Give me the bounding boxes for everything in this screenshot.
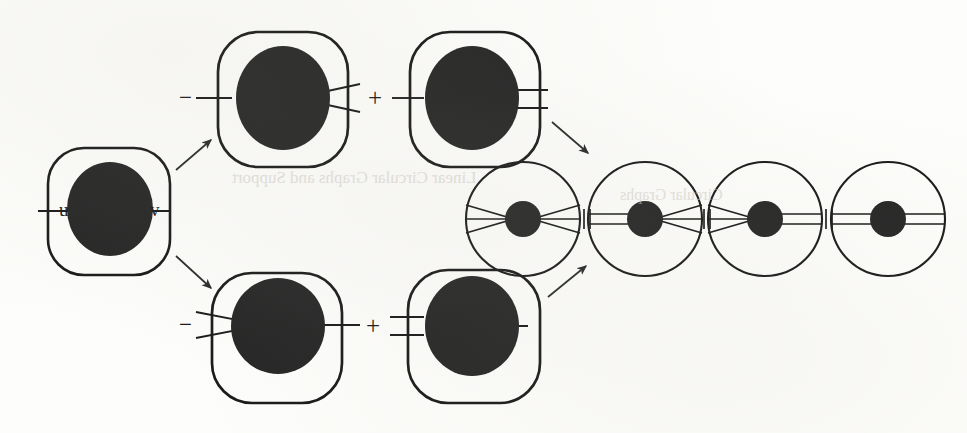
chain-circle-1-disc [505, 201, 541, 237]
chain-circle-2-disc [627, 201, 663, 237]
chain-circle-2-group [588, 162, 702, 276]
arrow-up-left [176, 140, 211, 170]
branch-bottom-minus-group [196, 273, 360, 403]
chain-circle-1-group [466, 162, 580, 276]
branch-top-plus-group [392, 32, 548, 167]
chain-circle-3-disc [747, 201, 783, 237]
branch-top-minus-disc [236, 46, 330, 150]
arrow-down-left [176, 256, 211, 288]
source-node-disc [67, 162, 153, 256]
arrow-up-right [548, 266, 586, 297]
label-u: u [59, 199, 69, 220]
branch-bottom-plus-disc [425, 276, 519, 376]
chain-circle-3-group [708, 162, 822, 276]
chain-circle-4-group [831, 162, 945, 276]
sign-top-minus: − [179, 85, 192, 110]
sign-bottom-plus: + [366, 312, 380, 339]
arrow-down-right [552, 122, 588, 153]
branch-top-plus-disc [425, 46, 519, 150]
figure-canvas: u v − + − + Linear Circular Graphs and S… [0, 0, 967, 433]
chain-circle-4-disc [870, 201, 906, 237]
branch-bottom-minus-disc [231, 278, 325, 374]
branch-bottom-plus-group [390, 270, 540, 403]
sign-bottom-minus: − [179, 312, 192, 337]
sign-top-plus: + [368, 84, 382, 111]
diagram-svg: u v − + − + [0, 0, 967, 433]
branch-top-minus-group [196, 32, 360, 167]
label-v: v [150, 199, 160, 220]
